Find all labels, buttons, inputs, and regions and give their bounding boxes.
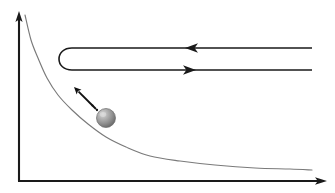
velocity-arrow: [74, 87, 98, 111]
sphere-highlight: [100, 112, 106, 117]
u-turn-ray-path: [59, 43, 312, 74]
sphere-body: [97, 109, 116, 128]
potential-curve-group: [25, 15, 312, 170]
axes-group: [15, 11, 327, 185]
velocity-trail-dot: [96, 109, 98, 111]
physics-diagram: [0, 0, 335, 193]
decaying-potential-curve: [25, 15, 312, 170]
diagram-canvas: [0, 0, 335, 193]
velocity-arrow-shaft: [79, 92, 95, 108]
particle-sphere: [97, 109, 116, 128]
